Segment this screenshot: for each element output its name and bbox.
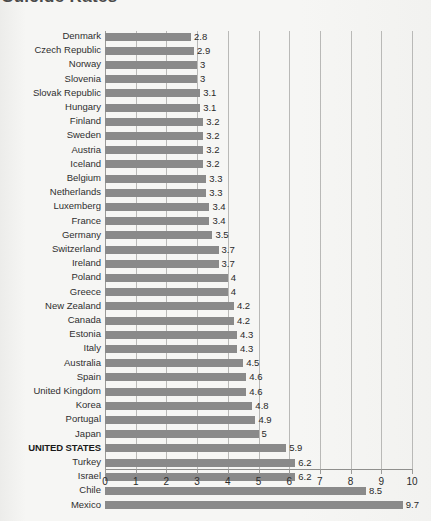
x-tick-label-6: 6 [277, 476, 301, 487]
bar-value-label: 3 [200, 60, 205, 70]
x-tick-5 [259, 469, 260, 474]
category-label: Spain [0, 372, 101, 382]
category-label: Israel [0, 471, 101, 481]
bar-value-label: 2.8 [194, 32, 207, 42]
bar [105, 246, 219, 254]
bar [105, 260, 219, 268]
bar-value-label: 4.6 [249, 387, 262, 397]
bar-row: Austria3.2 [0, 145, 431, 159]
bar-value-label: 3.2 [206, 131, 219, 141]
bar [105, 118, 203, 126]
bar [105, 231, 212, 239]
category-label: Austria [0, 145, 101, 155]
bar [105, 89, 200, 97]
bar-row: New Zealand4.2 [0, 301, 431, 315]
category-label: New Zealand [0, 301, 101, 311]
x-tick-label-7: 7 [308, 476, 332, 487]
bar [105, 146, 203, 154]
bar [105, 302, 234, 310]
bar-row: Luxemberg3.4 [0, 201, 431, 215]
bar [105, 274, 228, 282]
category-label: Mexico [0, 500, 101, 510]
bar-value-label: 4 [231, 273, 236, 283]
x-tick-6 [289, 469, 290, 474]
suicide-rates-bar-chart: Denmark2.8Czech Republic2.9Norway3Sloven… [0, 0, 431, 521]
bar [105, 75, 197, 83]
bar-row: Chile8.5 [0, 485, 431, 499]
bar-value-label: 4.2 [237, 301, 250, 311]
bar [105, 345, 237, 353]
bar [105, 501, 403, 509]
bar [105, 203, 209, 211]
bar-value-label: 4.6 [249, 372, 262, 382]
bar [105, 373, 246, 381]
bar-row: Belgium3.3 [0, 173, 431, 187]
category-label: UNITED STATES [0, 443, 101, 453]
bar-row: Czech Republic2.9 [0, 45, 431, 59]
bar-row: Hungary3.1 [0, 102, 431, 116]
bar-value-label: 3.2 [206, 117, 219, 127]
bar [105, 132, 203, 140]
category-label: Switzerland [0, 244, 101, 254]
bar [105, 317, 234, 325]
bar-row: Slovenia3 [0, 74, 431, 88]
category-label: Slovak Republic [0, 88, 101, 98]
bar-row: Denmark2.8 [0, 31, 431, 45]
bar-value-label: 3.7 [222, 245, 235, 255]
category-label: Canada [0, 315, 101, 325]
bar-value-label: 4 [231, 287, 236, 297]
bar-row: Iceland3.2 [0, 159, 431, 173]
bar [105, 416, 255, 424]
x-tick-label-5: 5 [247, 476, 271, 487]
category-label: Iceland [0, 159, 101, 169]
category-label: Finland [0, 116, 101, 126]
x-tick-label-2: 2 [154, 476, 178, 487]
bar-value-label: 3.3 [209, 174, 222, 184]
bar-row: Estonia4.3 [0, 329, 431, 343]
bar-row: Mexico9.7 [0, 500, 431, 514]
category-label: Germany [0, 230, 101, 240]
category-label: Sweden [0, 130, 101, 140]
bar-value-label: 3.7 [222, 259, 235, 269]
x-tick-label-0: 0 [93, 476, 117, 487]
bar-value-label: 4.9 [258, 415, 271, 425]
bar-row: Netherlands3.3 [0, 187, 431, 201]
bar [105, 104, 200, 112]
category-label: France [0, 216, 101, 226]
bar-row: Japan5 [0, 429, 431, 443]
bar [105, 47, 194, 55]
bar-value-label: 3.4 [212, 216, 225, 226]
bar [105, 288, 228, 296]
bar-value-label: 2.9 [197, 46, 210, 56]
bar-value-label: 6.2 [298, 458, 311, 468]
bar-row: Ireland3.7 [0, 258, 431, 272]
category-label: Czech Republic [0, 45, 101, 55]
bar-value-label: 5 [262, 429, 267, 439]
bar-row: Finland3.2 [0, 116, 431, 130]
bar [105, 189, 206, 197]
bar-row: Portugal4.9 [0, 414, 431, 428]
bar-row: Germany3.5 [0, 230, 431, 244]
bar-value-label: 3.1 [203, 88, 216, 98]
x-tick-label-9: 9 [369, 476, 393, 487]
bar [105, 487, 366, 495]
bar [105, 175, 206, 183]
category-label: Denmark [0, 31, 101, 41]
bar-row: UNITED STATES5.9 [0, 443, 431, 457]
category-label: Chile [0, 485, 101, 495]
chart-page: Suicide Rates Denmark2.8Czech Republic2.… [0, 0, 431, 521]
bar-value-label: 4.8 [255, 401, 268, 411]
bar-row: Slovak Republic3.1 [0, 88, 431, 102]
x-tick-label-8: 8 [339, 476, 363, 487]
bar-row: Norway3 [0, 59, 431, 73]
bar-value-label: 3.1 [203, 103, 216, 113]
bar-row: Spain4.6 [0, 372, 431, 386]
bar-value-label: 3.5 [215, 230, 228, 240]
x-tick-label-3: 3 [185, 476, 209, 487]
bar [105, 359, 243, 367]
category-label: Italy [0, 343, 101, 353]
bar-row: Italy4.3 [0, 343, 431, 357]
x-tick-3 [197, 469, 198, 474]
category-label: Norway [0, 59, 101, 69]
category-label: Korea [0, 400, 101, 410]
